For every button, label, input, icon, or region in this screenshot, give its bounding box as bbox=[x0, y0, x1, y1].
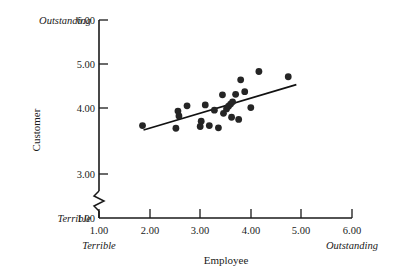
x-tick-label-5: 5.00 bbox=[292, 225, 310, 236]
data-point bbox=[211, 107, 218, 114]
data-point bbox=[219, 91, 226, 98]
data-point bbox=[215, 124, 222, 131]
x-tick-label-4: 4.00 bbox=[242, 225, 260, 236]
y-tick-label-5: 5.00 bbox=[77, 59, 95, 70]
data-point bbox=[176, 113, 183, 120]
data-point bbox=[256, 68, 263, 75]
data-point bbox=[184, 102, 191, 109]
x-axis-title: Employee bbox=[204, 254, 249, 266]
data-point bbox=[206, 122, 213, 129]
data-point bbox=[198, 118, 205, 125]
y-tick-label-3: 3.00 bbox=[77, 169, 95, 180]
data-point bbox=[247, 104, 254, 111]
x-tick-label-3: 3.00 bbox=[191, 225, 209, 236]
y-tick-label-4: 4.00 bbox=[77, 103, 95, 114]
data-point bbox=[202, 102, 209, 109]
x-tick-label-2: 2.00 bbox=[141, 225, 159, 236]
data-point bbox=[232, 91, 239, 98]
data-point bbox=[139, 122, 146, 129]
data-point bbox=[228, 114, 235, 121]
data-point bbox=[237, 76, 244, 83]
data-point bbox=[285, 73, 292, 80]
trend-line-group bbox=[144, 85, 297, 130]
x-anchor-high-label: Outstanding bbox=[326, 240, 378, 251]
scatterplot-figure: 6.00 5.00 4.00 3.00 1.00 Outstanding Ter… bbox=[0, 0, 398, 274]
data-point bbox=[241, 88, 248, 95]
y-anchor-low-label: Terrible bbox=[58, 213, 92, 224]
plot-canvas: 6.00 5.00 4.00 3.00 1.00 Outstanding Ter… bbox=[0, 0, 398, 274]
y-anchor-high-label: Outstanding bbox=[39, 15, 91, 26]
data-points-group bbox=[139, 68, 292, 132]
x-tick-label-6: 6.00 bbox=[343, 225, 361, 236]
x-tick-label-1: 1.00 bbox=[90, 225, 108, 236]
data-point bbox=[173, 125, 180, 132]
data-point bbox=[229, 98, 236, 105]
trend-line bbox=[144, 85, 297, 130]
x-anchor-low-label: Terrible bbox=[82, 240, 116, 251]
y-axis-title: Customer bbox=[30, 108, 42, 151]
y-axis-break-icon bbox=[94, 191, 104, 211]
data-point bbox=[235, 116, 242, 123]
